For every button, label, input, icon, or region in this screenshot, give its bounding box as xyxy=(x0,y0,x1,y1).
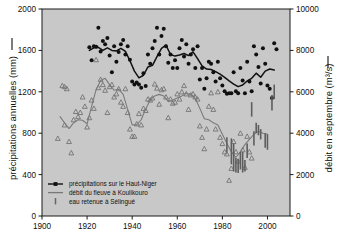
data-point-precipitation xyxy=(139,86,143,90)
figure-container: 190019201940196019802000 040080012001600… xyxy=(0,0,338,240)
data-point-precipitation xyxy=(159,34,163,38)
y-left-tick-label: 0 xyxy=(31,212,36,221)
data-point-precipitation xyxy=(250,89,254,93)
data-point-precipitation xyxy=(218,76,222,80)
data-point-precipitation xyxy=(245,60,249,64)
data-point-precipitation xyxy=(110,70,114,74)
data-point-precipitation xyxy=(180,38,184,42)
data-point-precipitation xyxy=(209,62,213,66)
y-right-tick-label: 4000 xyxy=(296,129,315,138)
data-point-precipitation xyxy=(87,45,91,49)
data-point-precipitation xyxy=(272,41,276,45)
data-point-precipitation xyxy=(238,66,242,70)
data-point-precipitation xyxy=(114,60,118,64)
data-point-precipitation xyxy=(193,66,197,70)
y-right-tick-label: 10000 xyxy=(296,5,319,14)
y-left-tick-label: 1200 xyxy=(18,88,37,97)
y-left-tick-label: 1600 xyxy=(18,46,37,55)
data-point-precipitation xyxy=(214,79,218,83)
x-tick-label: 1960 xyxy=(168,222,187,231)
data-point-precipitation xyxy=(178,46,182,50)
y-right-tick-label: 8000 xyxy=(296,46,315,55)
y-right-tick-label: 2000 xyxy=(296,171,315,180)
y-axis-right-ticks: 0200040006000800010000 xyxy=(290,5,319,221)
data-point-precipitation xyxy=(126,44,130,48)
legend-label: débit du fleuve à Koulikouro xyxy=(69,189,148,196)
data-point-precipitation xyxy=(252,44,256,48)
data-point-precipitation xyxy=(198,77,202,81)
y-left-tick-label: 800 xyxy=(22,129,36,138)
data-point-precipitation xyxy=(182,55,186,59)
data-point-precipitation xyxy=(216,60,220,64)
legend-marker-precipitation-square xyxy=(54,182,58,186)
data-point-precipitation xyxy=(243,91,247,95)
data-point-precipitation xyxy=(254,53,258,57)
data-point-precipitation xyxy=(202,87,206,91)
x-axis-ticks: 190019201940196019802000 xyxy=(33,216,277,231)
data-point-precipitation xyxy=(259,82,263,86)
data-point-precipitation xyxy=(112,44,116,48)
legend-label: précipitations sur le Haut-Niger xyxy=(69,180,158,188)
data-point-precipitation xyxy=(121,38,125,42)
data-point-precipitation xyxy=(108,54,112,58)
data-point-precipitation xyxy=(171,66,175,70)
x-tick-label: 2000 xyxy=(258,222,277,231)
y-left-tick-label: 400 xyxy=(22,171,36,180)
data-point-precipitation xyxy=(241,78,245,82)
y-axis-right-label: débit en septembre (m³/s) xyxy=(323,64,334,173)
data-point-precipitation xyxy=(175,66,179,70)
data-point-precipitation xyxy=(236,91,240,95)
x-tick-label: 1940 xyxy=(123,222,142,231)
x-tick-label: 1900 xyxy=(33,222,52,231)
data-point-precipitation xyxy=(153,39,157,43)
data-point-precipitation xyxy=(119,42,123,46)
precipitation-discharge-chart: 190019201940196019802000 040080012001600… xyxy=(0,0,338,240)
data-point-precipitation xyxy=(162,27,166,31)
data-point-precipitation xyxy=(256,65,260,69)
data-point-precipitation xyxy=(268,87,272,91)
data-point-precipitation xyxy=(184,42,188,46)
data-point-precipitation xyxy=(274,47,278,51)
data-point-precipitation xyxy=(232,70,236,74)
x-tick-label: 1920 xyxy=(78,222,97,231)
data-point-precipitation xyxy=(173,58,177,62)
data-point-precipitation xyxy=(220,84,224,88)
y-right-tick-label: 6000 xyxy=(296,88,315,97)
y-left-tick-label: 2000 xyxy=(18,5,37,14)
data-point-precipitation xyxy=(263,62,267,66)
y-axis-left-label: précipitations annuelles (mm) xyxy=(7,56,18,180)
data-point-precipitation xyxy=(90,58,94,62)
y-axis-left-ticks: 0400800120016002000 xyxy=(18,5,42,221)
data-point-precipitation xyxy=(105,36,109,40)
data-point-precipitation xyxy=(166,61,170,65)
data-point-precipitation xyxy=(150,46,154,50)
legend-label: eau retenue à Sélingué xyxy=(69,198,136,206)
data-point-precipitation xyxy=(103,42,107,46)
data-point-precipitation xyxy=(144,84,148,88)
x-tick-label: 1980 xyxy=(213,222,232,231)
data-point-precipitation xyxy=(155,26,159,30)
data-point-precipitation xyxy=(196,44,200,48)
data-point-precipitation xyxy=(187,62,191,66)
data-point-precipitation xyxy=(205,76,209,80)
data-point-precipitation xyxy=(96,26,100,30)
y-right-tick-label: 0 xyxy=(296,212,301,221)
data-point-precipitation xyxy=(191,47,195,51)
data-point-precipitation xyxy=(146,53,150,57)
data-point-precipitation xyxy=(229,91,233,95)
data-point-precipitation xyxy=(261,46,265,50)
